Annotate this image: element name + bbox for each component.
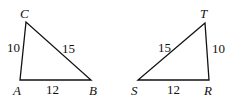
vertex-s-label: S [131, 83, 138, 98]
side-ab-label: 12 [46, 82, 59, 97]
vertex-r-label: R [203, 83, 212, 98]
triangle-abc: C A B 10 15 12 [7, 6, 97, 98]
triangle-diagram: C A B 10 15 12 T S R 15 10 12 [0, 0, 231, 100]
side-sr-label: 12 [167, 82, 180, 97]
triangle-srt-shape [138, 23, 209, 80]
side-cb-label: 15 [62, 41, 75, 56]
vertex-b-label: B [89, 83, 97, 98]
side-tr-label: 10 [212, 41, 225, 56]
vertex-a-label: A [12, 83, 21, 98]
vertex-c-label: C [20, 6, 29, 21]
vertex-t-label: T [200, 6, 208, 21]
side-ca-label: 10 [7, 40, 20, 55]
side-st-label: 15 [158, 40, 171, 55]
triangle-srt: T S R 15 10 12 [131, 6, 225, 98]
triangle-abc-shape [20, 22, 91, 80]
